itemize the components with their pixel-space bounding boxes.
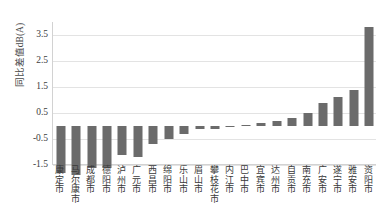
bar-slot: [207, 22, 222, 164]
bar[interactable]: [118, 126, 127, 155]
x-tick-label: 雅安市: [346, 166, 360, 195]
bar-slot: [146, 22, 161, 164]
bar[interactable]: [288, 118, 297, 126]
bar-chart: 同比差值dB(A) 3.52.51.50.5-0.5-1.5 康定市马尔康市成都…: [0, 0, 382, 219]
bar[interactable]: [87, 126, 96, 168]
bar-slot: [53, 22, 68, 164]
x-tick-label: 资阳市: [361, 166, 375, 195]
bar[interactable]: [241, 125, 250, 126]
bar[interactable]: [102, 126, 111, 168]
bar-slot: [161, 22, 176, 164]
bar[interactable]: [272, 121, 281, 126]
y-axis-tick-labels: 3.52.51.50.5-0.5-1.5: [14, 0, 50, 165]
bar-slot: [269, 22, 284, 164]
x-tick-label: 自贡市: [284, 166, 298, 195]
x-tick-label: 泸州市: [114, 166, 128, 195]
y-tick-label: 3.5: [14, 30, 48, 40]
bar-slot: [300, 22, 315, 164]
bar-slot: [130, 22, 145, 164]
x-tick-label: 遂宁市: [330, 166, 344, 195]
x-tick-label: 康定市: [53, 166, 67, 195]
bar[interactable]: [257, 123, 266, 126]
x-tick-label: 眉山市: [192, 166, 206, 195]
x-tick-label: 南充市: [300, 166, 314, 195]
bar-slot: [346, 22, 361, 164]
bar[interactable]: [164, 126, 173, 139]
bar-slot: [68, 22, 83, 164]
y-tick-label: 2.5: [14, 56, 48, 66]
x-axis-tick-labels: 康定市马尔康市成都市德阳市泸州市广元市西昌市绵阳市乐山市眉山市攀枝花市内江市巴中…: [52, 166, 376, 219]
x-tick-label: 乐山市: [176, 166, 190, 195]
bar[interactable]: [365, 27, 374, 126]
x-tick-label: 马尔康市: [68, 166, 82, 204]
x-tick-label: 成都市: [84, 166, 98, 195]
x-tick-label: 广安市: [315, 166, 329, 195]
bar-slot: [315, 22, 330, 164]
y-tick-label: 0.5: [14, 108, 48, 118]
bar[interactable]: [334, 97, 343, 126]
y-tick-label: -1.5: [14, 160, 48, 170]
bar-slot: [238, 22, 253, 164]
bar[interactable]: [226, 126, 235, 127]
bar[interactable]: [180, 126, 189, 134]
x-tick-label: 广元市: [130, 166, 144, 195]
bar[interactable]: [303, 113, 312, 126]
bar-slot: [192, 22, 207, 164]
x-tick-label: 内江市: [222, 166, 236, 195]
x-tick-label: 宜宾市: [253, 166, 267, 195]
x-tick-label: 西昌市: [145, 166, 159, 195]
bar-slot: [84, 22, 99, 164]
x-tick-label: 绵阳市: [161, 166, 175, 195]
bars-layer: [53, 22, 376, 164]
bar-slot: [115, 22, 130, 164]
bar-slot: [254, 22, 269, 164]
y-tick-label: -0.5: [14, 134, 48, 144]
bar[interactable]: [149, 126, 158, 144]
x-tick-label: 巴中市: [238, 166, 252, 195]
bar-slot: [284, 22, 299, 164]
plot-area: [52, 22, 376, 165]
y-tick-label: 1.5: [14, 82, 48, 92]
bar[interactable]: [195, 126, 204, 129]
x-tick-label: 德阳市: [99, 166, 113, 195]
bar-slot: [99, 22, 114, 164]
bar[interactable]: [210, 126, 219, 129]
bar[interactable]: [133, 126, 142, 157]
bar[interactable]: [349, 90, 358, 126]
x-tick-label: 攀枝花市: [207, 166, 221, 204]
x-tick-label: 达州市: [269, 166, 283, 195]
bar[interactable]: [318, 103, 327, 126]
bar-slot: [176, 22, 191, 164]
bar-slot: [362, 22, 377, 164]
bar-slot: [223, 22, 238, 164]
bar-slot: [331, 22, 346, 164]
